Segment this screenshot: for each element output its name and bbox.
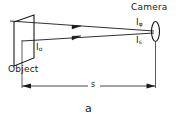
camera-lens-icon <box>152 22 160 42</box>
dimension-arrow-left <box>22 83 31 88</box>
figure-diagram: Camera Object Io Iφ Is s a <box>0 0 177 123</box>
object-label: Object <box>8 65 39 74</box>
camera-label: Camera <box>131 3 168 12</box>
intensity-phi-label: Iφ <box>136 18 143 27</box>
intensity-phi-subscript: φ <box>139 20 143 27</box>
figure-caption: a <box>85 103 92 114</box>
intensity-object-subscript: o <box>39 45 43 52</box>
ray-upper <box>10 21 154 31</box>
intensity-s-label: Is <box>136 36 142 45</box>
ray-lower <box>22 33 154 41</box>
ray-upper-arrowhead <box>72 25 81 29</box>
distance-label: s <box>91 81 95 89</box>
dimension-line-s <box>22 80 156 92</box>
dimension-arrow-right <box>147 83 156 88</box>
intensity-object-label: Io <box>36 43 42 52</box>
intensity-s-subscript: s <box>139 38 142 45</box>
